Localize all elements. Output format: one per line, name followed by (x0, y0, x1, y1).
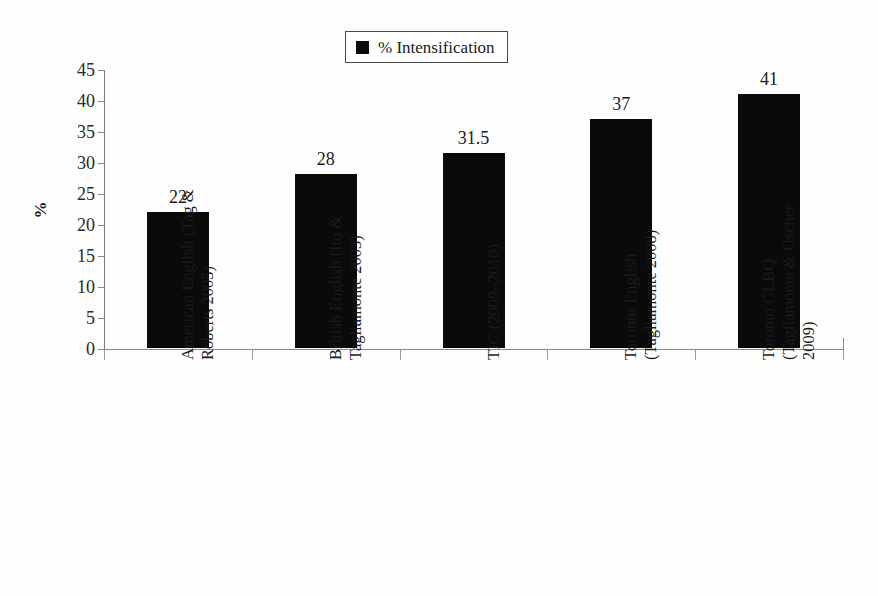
bar-value-label: 41 (760, 69, 778, 90)
category-label-line: Tagliamonte 2003) (346, 216, 366, 360)
y-axis-tick-label: 15 (77, 246, 95, 267)
y-axis-tick (98, 163, 104, 164)
x-axis-tick (695, 350, 696, 360)
category-label-line: British English (Ito & (326, 216, 346, 360)
x-axis-category-label: Toronto GLBQ(Tagliamonte & Uscher2009) (759, 204, 819, 360)
y-axis-tick-label: 45 (77, 60, 95, 81)
x-axis-category-label: TIC (2009–2010) (484, 244, 504, 360)
chart-legend: % Intensification (345, 31, 508, 63)
category-label-line: Toronto English (621, 230, 641, 360)
y-axis-line (104, 70, 105, 350)
x-axis-tick (843, 350, 844, 360)
plot-right-edge (843, 338, 844, 350)
category-label-line: (Tagliamonte 2008) (641, 230, 661, 360)
y-axis-tick-label: 25 (77, 184, 95, 205)
legend-swatch-icon (356, 41, 369, 54)
category-label-line: Toronto GLBQ (759, 204, 779, 360)
y-axis-tick (98, 132, 104, 133)
x-axis-category-label: British English (Ito &Tagliamonte 2003) (326, 216, 366, 360)
y-axis-tick (98, 70, 104, 71)
bar-value-label: 37 (612, 94, 630, 115)
y-axis-tick (98, 318, 104, 319)
category-label-line: American English (Tag & (178, 189, 198, 360)
chart-page: % Intensification % 454035302520151050 2… (0, 0, 878, 596)
y-axis-tick-label: 5 (86, 308, 95, 329)
y-axis-tick (98, 101, 104, 102)
y-axis-tick (98, 194, 104, 195)
x-axis-tick (252, 350, 253, 360)
bar-value-label: 31.5 (458, 128, 490, 149)
category-label-line: 2009) (799, 204, 819, 360)
y-axis-tick (98, 256, 104, 257)
y-axis-tick-label: 35 (77, 122, 95, 143)
x-axis-category-label: American English (Tag &Roberts 2005) (178, 189, 218, 360)
legend-label: % Intensification (378, 39, 495, 56)
category-label-line: Roberts 2005) (198, 189, 218, 360)
y-axis-tick (98, 287, 104, 288)
category-label-line: TIC (2009–2010) (484, 244, 504, 360)
x-axis-category-label: Toronto English(Tagliamonte 2008) (621, 230, 661, 360)
y-axis-tick-label: 0 (86, 339, 95, 360)
y-axis-tick-label: 20 (77, 215, 95, 236)
x-axis-tick (400, 350, 401, 360)
y-axis-tick-label: 10 (77, 277, 95, 298)
y-axis-tick-label: 30 (77, 153, 95, 174)
y-axis-tick-label: 40 (77, 91, 95, 112)
x-axis-tick (547, 350, 548, 360)
y-axis-title: % (31, 202, 51, 219)
bar-value-label: 28 (317, 149, 335, 170)
category-label-line: (Tagliamonte & Uscher (779, 204, 799, 360)
x-axis-tick (104, 350, 105, 360)
y-axis-tick (98, 225, 104, 226)
